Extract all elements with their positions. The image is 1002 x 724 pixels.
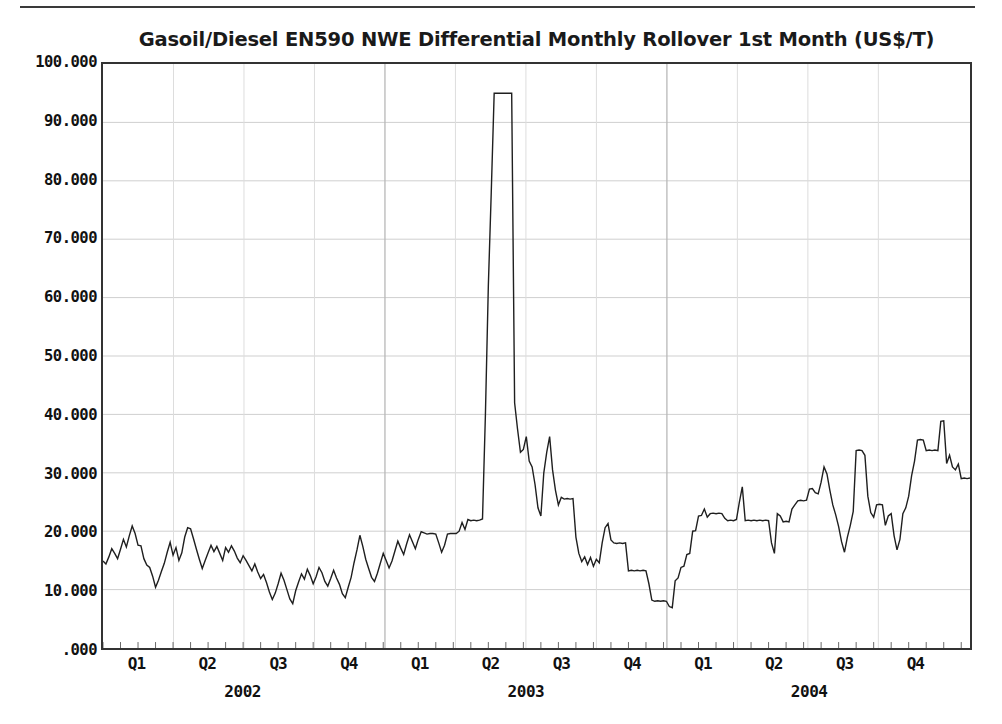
x-axis-tick-label: Q1 [385, 654, 455, 673]
chart-page: Gasoil/Diesel EN590 NWE Differential Mon… [0, 0, 1002, 724]
x-axis-quarter-labels: Q1Q2Q3Q4Q1Q2Q3Q4Q1Q2Q3Q4 [101, 654, 972, 680]
x-axis-tick-label: Q4 [314, 654, 384, 673]
top-horizontal-rule [20, 6, 975, 8]
x-axis-year-label: 2003 [471, 682, 581, 701]
y-axis-tick-label: .000 [5, 641, 97, 659]
x-axis-tick-label: Q4 [597, 654, 667, 673]
y-axis-tick-label: 40.000 [5, 406, 97, 424]
y-axis-tick-label: 90.000 [5, 112, 97, 130]
x-axis-tick-label: Q3 [810, 654, 880, 673]
y-axis-tick-label: 70.000 [5, 229, 97, 247]
chart-series-line [103, 64, 970, 648]
y-axis-tick-label: 60.000 [5, 288, 97, 306]
plot-area [101, 62, 972, 650]
y-axis-tick-labels: 100.00090.00080.00070.00060.00050.00040.… [0, 62, 97, 650]
x-axis-tick-label: Q2 [172, 654, 242, 673]
x-axis-year-label: 2002 [188, 682, 298, 701]
x-axis-tick-label: Q3 [243, 654, 313, 673]
x-axis-tick-label: Q2 [739, 654, 809, 673]
x-axis-tick-label: Q1 [668, 654, 738, 673]
y-axis-tick-label: 100.000 [5, 53, 97, 71]
y-axis-tick-label: 20.000 [5, 523, 97, 541]
y-axis-tick-label: 80.000 [5, 171, 97, 189]
x-axis-tick-label: Q1 [101, 654, 171, 673]
series-path [103, 93, 970, 608]
y-axis-tick-label: 10.000 [5, 582, 97, 600]
y-axis-tick-label: 30.000 [5, 465, 97, 483]
x-axis-tick-label: Q4 [880, 654, 950, 673]
chart-title: Gasoil/Diesel EN590 NWE Differential Mon… [101, 28, 972, 51]
x-axis-tick-label: Q3 [526, 654, 596, 673]
y-axis-tick-label: 50.000 [5, 347, 97, 365]
x-axis-year-label: 2004 [754, 682, 864, 701]
x-axis-year-labels: 200220032004 [101, 682, 972, 708]
x-axis-tick-label: Q2 [455, 654, 525, 673]
